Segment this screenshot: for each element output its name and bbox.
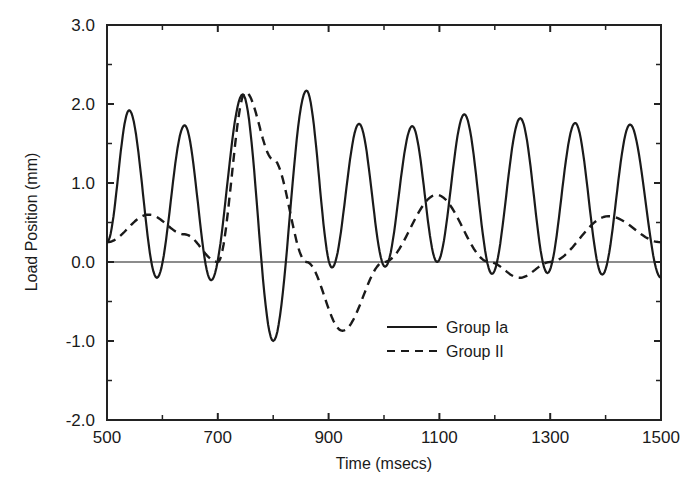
x-tick-label: 1100 bbox=[421, 428, 458, 447]
y-tick-label: 2.0 bbox=[71, 95, 95, 114]
legend-label-group-ia: Group Ia bbox=[446, 319, 508, 336]
y-tick-label: 0.0 bbox=[71, 253, 95, 272]
x-tick-label: 900 bbox=[314, 428, 342, 447]
x-tick-label: 1500 bbox=[642, 428, 680, 447]
x-tick-label: 500 bbox=[93, 428, 121, 447]
legend: Group Ia Group II bbox=[387, 319, 508, 360]
series-layer bbox=[107, 91, 661, 341]
line-chart: -2.0-1.00.01.02.03.0 5007009001100130015… bbox=[0, 0, 689, 478]
plot-area bbox=[107, 25, 661, 420]
y-axis-title: Load Position (mm) bbox=[23, 153, 40, 292]
x-tick-label: 1300 bbox=[531, 428, 569, 447]
y-tick-label: 3.0 bbox=[71, 16, 95, 35]
x-tick-label: 700 bbox=[204, 428, 232, 447]
x-axis: 500700900110013001500 bbox=[93, 25, 680, 447]
plot-frame bbox=[107, 25, 661, 420]
legend-label-group-ii: Group II bbox=[446, 343, 504, 360]
y-tick-label: -2.0 bbox=[66, 411, 95, 430]
y-tick-label: 1.0 bbox=[71, 174, 95, 193]
y-axis: -2.0-1.00.01.02.03.0 bbox=[66, 16, 661, 430]
x-axis-title: Time (msecs) bbox=[336, 455, 432, 472]
series-group-ia bbox=[107, 91, 661, 341]
y-tick-label: -1.0 bbox=[66, 332, 95, 351]
